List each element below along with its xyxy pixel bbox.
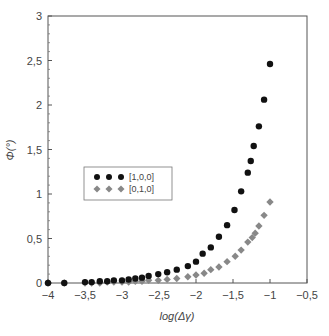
x-tick-label: −4 — [42, 289, 55, 301]
data-point-circle — [174, 266, 180, 272]
x-tick-label: −3,5 — [74, 289, 96, 301]
data-point-circle — [61, 280, 67, 286]
y-tick-label: 1,5 — [27, 144, 42, 156]
x-tick-label: −3 — [116, 289, 129, 301]
data-point-circle — [104, 278, 110, 284]
y-axis: 00,511,522,53 — [27, 10, 52, 289]
data-point-circle — [119, 277, 125, 283]
data-point-circle — [251, 143, 257, 149]
y-axis-label: Φ(°) — [4, 139, 16, 160]
y-tick-label: 2 — [36, 99, 42, 111]
data-point-circle — [111, 277, 117, 283]
legend-marker-circle-icon — [118, 174, 124, 180]
x-axis-label: log(Δγ) — [160, 310, 195, 322]
data-point-diamond — [260, 212, 267, 219]
data-point-circle — [139, 274, 145, 280]
data-point-circle — [261, 96, 267, 102]
plot-frame — [48, 16, 307, 283]
data-point-diamond — [223, 258, 230, 265]
legend-label-100: [1,0,0] — [129, 172, 154, 182]
data-point-circle — [125, 276, 131, 282]
data-point-diamond — [200, 270, 207, 277]
data-point-circle — [256, 123, 262, 129]
data-point-diamond — [237, 246, 244, 253]
chart: 00,511,522,53 −4−3,5−3−2,5−2−1,5−1−0,5 l… — [0, 0, 329, 336]
data-point-circle — [216, 234, 222, 240]
data-point-diamond — [173, 275, 180, 282]
data-point-diamond — [244, 238, 251, 245]
legend: [1,0,0] [0,1,0] — [84, 167, 172, 200]
data-point-circle — [45, 280, 51, 286]
x-tick-label: −1,5 — [222, 289, 244, 301]
data-point-circle — [164, 269, 170, 275]
data-point-circle — [193, 258, 199, 264]
data-point-diamond — [163, 276, 170, 283]
legend-label-010: [0,1,0] — [129, 184, 154, 194]
legend-marker-circle-icon — [106, 174, 112, 180]
data-point-circle — [145, 273, 151, 279]
data-point-diamond — [232, 253, 239, 260]
data-point-circle — [248, 158, 254, 164]
data-point-circle — [97, 278, 103, 284]
y-tick-label: 0,5 — [27, 233, 42, 245]
data-point-circle — [267, 61, 273, 67]
data-point-circle — [238, 188, 244, 194]
legend-marker-circle-icon — [94, 174, 100, 180]
x-tick-label: −2 — [190, 289, 203, 301]
data-point-circle — [208, 244, 214, 250]
data-point-circle — [132, 275, 138, 281]
data-point-circle — [224, 222, 230, 228]
data-point-circle — [231, 207, 237, 213]
data-point-diamond — [266, 198, 273, 205]
data-point-circle — [155, 271, 161, 277]
data-point-diamond — [215, 263, 222, 270]
x-tick-label: −1 — [264, 289, 277, 301]
data-point-circle — [185, 263, 191, 269]
x-tick-label: −2,5 — [148, 289, 170, 301]
data-point-circle — [199, 250, 205, 256]
data-point-circle — [245, 169, 251, 175]
y-tick-label: 3 — [36, 10, 42, 22]
y-tick-label: 0 — [36, 277, 42, 289]
y-tick-label: 2,5 — [27, 55, 42, 67]
x-tick-label: −0,5 — [296, 289, 318, 301]
data-point-circle — [88, 279, 94, 285]
data-point-diamond — [255, 222, 262, 229]
data-point-diamond — [207, 266, 214, 273]
y-tick-label: 1 — [36, 188, 42, 200]
data-point-diamond — [184, 273, 191, 280]
data-point-circle — [82, 279, 88, 285]
data-point-diamond — [192, 271, 199, 278]
legend-box — [84, 167, 172, 200]
